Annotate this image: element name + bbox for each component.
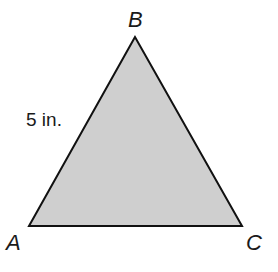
side-length-ab: 5 in. [26,109,62,130]
vertex-label-c: C [246,230,262,255]
triangle-abc [29,37,242,226]
triangle-diagram: B A C 5 in. [0,0,278,272]
vertex-label-a: A [4,230,21,255]
vertex-label-b: B [128,7,143,32]
